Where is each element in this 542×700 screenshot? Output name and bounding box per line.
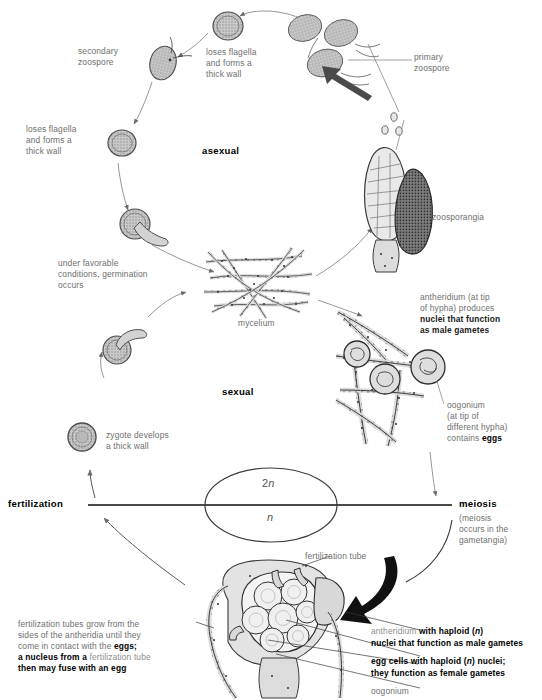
label-sexual: sexual <box>222 386 254 397</box>
callout-oogonium-line3: different hypha) <box>447 422 507 433</box>
callout-bottom-antheridium-line2: nuclei that function as male gametes <box>371 638 523 649</box>
label-loses-flagella-top: loses flagella and forms a thick wall <box>206 47 257 80</box>
label-haploid: n <box>267 512 273 523</box>
note-fert-tubes-line4: a nucleus from a fertilization tube <box>18 652 151 663</box>
label-diploid: 2n <box>262 478 275 489</box>
released-spores <box>382 113 402 135</box>
callout-antheridium: antheridium (at tip <box>420 292 490 303</box>
callout-bottom-egg-line1: egg cells with haploid (n) nuclei; <box>371 656 505 667</box>
callout-oogonium-line2: (at tip of <box>447 411 479 422</box>
label-asexual: asexual <box>202 145 239 156</box>
callout-antheridium-line4: as male gametes <box>420 325 489 336</box>
primary-zoospore-cluster <box>285 10 380 101</box>
label-mycelium: mycelium <box>238 318 275 329</box>
label-zoosporangia: zoosporangia <box>432 212 484 223</box>
secondary-zoospore <box>146 37 192 83</box>
callout-bottom-egg-line2: they function as female gametes <box>371 668 505 679</box>
label-fertilization: fertilization <box>8 498 63 509</box>
label-loses-flagella-left: loses flagella and forms a thick wall <box>26 124 77 157</box>
label-germination: under favorable conditions, germination … <box>58 258 148 291</box>
callout-oogonium-line4: contains eggs <box>447 433 502 444</box>
encysted-spore-top <box>213 12 243 40</box>
label-secondary-zoospore: secondary zoospore <box>78 46 118 68</box>
encysted-spore-left <box>108 130 136 156</box>
germinating-spore-upper <box>120 209 168 246</box>
mycelium <box>204 248 312 318</box>
life-cycle-figure: secondary zoospore loses flagella and fo… <box>0 0 542 700</box>
callout-antheridium-line3: nuclei that function <box>420 314 500 325</box>
label-zygote: zygote develops a thick wall <box>106 430 169 452</box>
label-meiosis-note: (meiosis occurs in the gametangia) <box>459 513 508 546</box>
label-fertilization-tube: fertilization tube <box>305 551 366 562</box>
diagram-canvas <box>0 0 542 700</box>
label-primary-zoospore: primary zoospore <box>414 52 450 74</box>
note-fert-tubes-line3: come in contact with the eggs; <box>18 641 137 652</box>
germinating-spore-lower <box>103 330 147 364</box>
zygote <box>68 423 96 451</box>
callout-bottom-oogonium: oogonium <box>371 686 409 697</box>
callout-antheridium-line2: of hypha) produces <box>420 303 494 314</box>
callout-bottom-antheridium-line1: antheridium with haploid (n) <box>371 626 483 637</box>
note-fert-tubes-line2: sides of the antheridia until they <box>18 630 141 641</box>
callout-oogonium-line1: oogonium <box>447 400 485 411</box>
note-fert-tubes-line5: then may fuse with an egg <box>18 663 126 674</box>
label-meiosis: meiosis <box>459 498 497 509</box>
zoosporangia <box>365 148 433 272</box>
note-fert-tubes-line1: fertilization tubes grow from the <box>18 619 139 630</box>
